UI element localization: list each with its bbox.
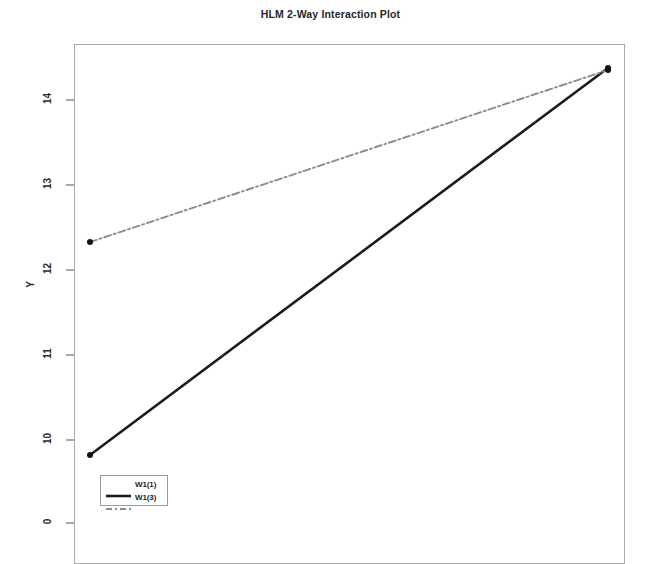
legend-line-swatch <box>106 497 131 501</box>
data-point-marker <box>605 67 611 73</box>
legend: W1(1)W1(3) <box>100 475 168 506</box>
legend-item: W1(1) <box>101 479 169 492</box>
data-point-marker <box>87 452 93 458</box>
legend-label: W1(1) <box>135 480 156 489</box>
series-line <box>90 68 608 455</box>
data-point-marker <box>87 239 93 245</box>
series-line <box>90 70 608 242</box>
legend-label: W1(3) <box>135 493 156 502</box>
legend-item: W1(3) <box>101 492 169 505</box>
legend-line-swatch <box>106 484 131 488</box>
